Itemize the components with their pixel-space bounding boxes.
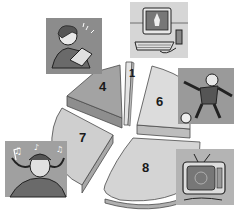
tv-picture bbox=[176, 149, 234, 205]
slice-label-6: 6 bbox=[156, 94, 163, 109]
computer-picture bbox=[130, 2, 188, 58]
slice-label-4: 4 bbox=[99, 79, 106, 94]
music-picture: ♫ ♪ ♫ bbox=[5, 141, 67, 197]
slice-label-1: 1 bbox=[129, 67, 135, 79]
slice-label-7: 7 bbox=[79, 130, 86, 145]
slice-label-8: 8 bbox=[142, 160, 149, 175]
svg-text:♪: ♪ bbox=[34, 143, 39, 152]
pie-chart-illustration: ♫ ♪ ♫ 4 1 6 7 8 bbox=[0, 0, 242, 216]
football-picture bbox=[178, 68, 234, 124]
reading-picture bbox=[46, 18, 102, 74]
svg-text:♫: ♫ bbox=[56, 145, 63, 154]
svg-text:♫: ♫ bbox=[14, 146, 22, 156]
